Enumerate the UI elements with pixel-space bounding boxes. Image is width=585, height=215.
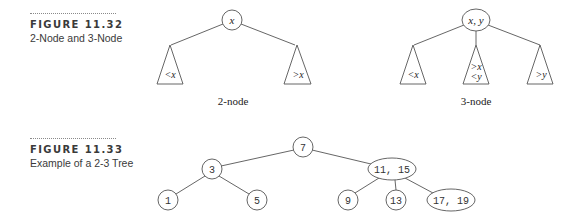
subtree-label: >x [292, 69, 304, 80]
node-value: 1 [165, 196, 171, 207]
node-value: 5 [254, 196, 260, 207]
subtree-label: <x [164, 69, 176, 80]
two-node-caption: 2-node [218, 95, 249, 107]
node-value: 3 [209, 165, 215, 176]
node-value: 9 [345, 196, 351, 207]
subtree-label: <y [470, 71, 482, 82]
two-node-label: x [229, 14, 235, 26]
three-node-label: x, y [467, 14, 483, 26]
subtree-label: >y [535, 69, 547, 80]
node-value: 17, 19 [433, 196, 469, 207]
subtree-label: <x [407, 69, 419, 80]
figures-canvas: x <x >x 2-node x, y <x >x <y >y 3-node 7… [0, 0, 585, 215]
node-value: 7 [300, 143, 306, 154]
three-node-caption: 3-node [461, 95, 492, 107]
node-value: 11, 15 [374, 165, 410, 176]
two-three-tree [158, 137, 475, 211]
node-value: 13 [390, 196, 402, 207]
